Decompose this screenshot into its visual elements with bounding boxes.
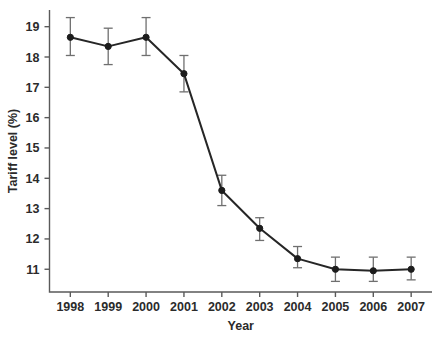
data-point-marker (143, 34, 149, 40)
x-tick-label: 2005 (322, 300, 350, 314)
error-bars (66, 18, 416, 282)
x-axis-title: Year (228, 319, 255, 333)
y-tick-label: 16 (26, 111, 40, 125)
y-tick-label: 15 (26, 141, 40, 155)
y-tick-label: 13 (26, 202, 40, 216)
chart-figure: 111213141516171819 199819992000200120022… (0, 0, 443, 337)
chart-axes (50, 10, 433, 292)
y-tick-label: 14 (26, 172, 40, 186)
x-tick-label: 2000 (132, 300, 160, 314)
x-tick-label: 2001 (170, 300, 198, 314)
y-tick-label: 11 (26, 263, 39, 277)
data-point-marker (219, 187, 225, 193)
y-axis-ticks: 111213141516171819 (26, 20, 50, 277)
x-tick-label: 1999 (94, 300, 122, 314)
data-point-marker (67, 34, 73, 40)
data-point-marker (181, 71, 187, 77)
series-line (70, 37, 411, 270)
y-tick-label: 12 (26, 232, 40, 246)
x-tick-label: 2002 (208, 300, 236, 314)
data-markers (67, 34, 414, 274)
x-axis-ticks: 1998199920002001200220032004200520062007 (56, 292, 425, 314)
data-point-marker (408, 266, 414, 272)
x-tick-label: 2007 (397, 300, 425, 314)
data-point-marker (332, 266, 338, 272)
x-tick-label: 2006 (359, 300, 387, 314)
y-tick-label: 18 (26, 51, 40, 65)
x-tick-label: 2003 (246, 300, 274, 314)
axis-spine (50, 10, 433, 292)
data-point-marker (370, 268, 376, 274)
series-path (70, 37, 411, 270)
y-tick-label: 17 (26, 81, 40, 95)
x-tick-label: 2004 (284, 300, 312, 314)
line-chart: 111213141516171819 199819992000200120022… (0, 0, 443, 337)
data-point-marker (105, 43, 111, 49)
data-point-marker (257, 225, 263, 231)
data-point-marker (294, 256, 300, 262)
y-axis-title: Tariff level (%) (6, 109, 20, 194)
y-tick-label: 19 (26, 20, 40, 34)
x-tick-label: 1998 (56, 300, 84, 314)
